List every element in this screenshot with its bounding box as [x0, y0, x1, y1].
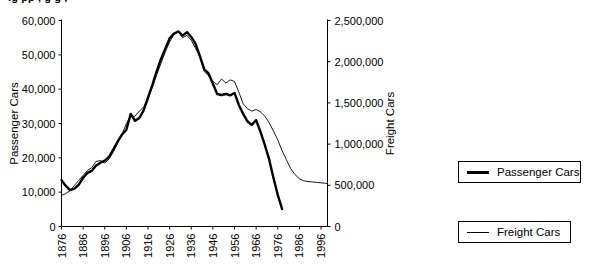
right-axis-tick-label: 2,000,000 — [335, 56, 384, 68]
left-axis-title: Passenger Cars — [8, 82, 20, 165]
left-axis-tick-label: 30,000 — [22, 118, 56, 130]
x-axis-tick-label: 1966 — [250, 234, 262, 258]
right-axis-ticks: 0500,0001,000,0001,500,0002,000,0002,500… — [328, 15, 384, 233]
x-axis-tick-label: 1886 — [77, 234, 89, 258]
legend-label-passenger-cars: Passenger Cars — [497, 166, 579, 178]
legend-label-freight-cars: Freight Cars — [497, 226, 560, 238]
left-axis-ticks: 010,00020,00030,00040,00050,00060,000 — [22, 15, 62, 233]
x-axis-tick-label: 1926 — [164, 234, 176, 258]
x-axis-tick-label: 1936 — [185, 234, 197, 258]
legend-item-passenger-cars[interactable]: Passenger Cars — [458, 161, 581, 183]
left-axis-tick-label: 40,000 — [22, 83, 56, 95]
legend-item-freight-cars[interactable]: Freight Cars — [458, 221, 571, 243]
right-axis-tick-label: 1,500,000 — [335, 97, 384, 109]
right-axis-tick-label: 2,500,000 — [335, 15, 384, 27]
x-axis-tick-label: 1976 — [272, 234, 284, 258]
left-axis-tick-label: 20,000 — [22, 152, 56, 164]
x-axis-tick-label: 1906 — [120, 234, 132, 258]
axis-lines — [62, 20, 328, 227]
x-axis-tick-label: 1996 — [315, 234, 327, 258]
x-axis-tick-label: 1916 — [142, 234, 154, 258]
series-line-passenger-cars — [62, 31, 283, 209]
left-axis-tick-label: 10,000 — [22, 186, 56, 198]
right-axis-tick-label: 0 — [335, 221, 341, 233]
freight-cars-line-swatch-icon — [467, 232, 489, 233]
left-axis-tick-label: 50,000 — [22, 49, 56, 61]
x-axis-tick-label: 1986 — [293, 234, 305, 258]
right-axis-tick-label: 500,000 — [335, 179, 375, 191]
right-axis-title: Freight Cars — [384, 92, 396, 156]
left-axis-tick-label: 0 — [49, 221, 55, 233]
x-axis-tick-label: 1956 — [229, 234, 241, 258]
series-line-freight-cars — [62, 31, 328, 195]
right-axis-tick-label: 1,000,000 — [335, 138, 384, 150]
x-axis-tick-label: 1876 — [56, 234, 68, 258]
x-axis-ticks: 1876188618961906191619261936194619561966… — [56, 227, 328, 258]
x-axis-tick-label: 1896 — [99, 234, 111, 258]
left-axis-tick-label: 60,000 — [22, 15, 56, 27]
chart-figure: ig pp , g g , 010,00020,00030,00040,0005… — [0, 0, 598, 271]
passenger-cars-line-swatch-icon — [467, 171, 489, 174]
x-axis-tick-label: 1946 — [207, 234, 219, 258]
